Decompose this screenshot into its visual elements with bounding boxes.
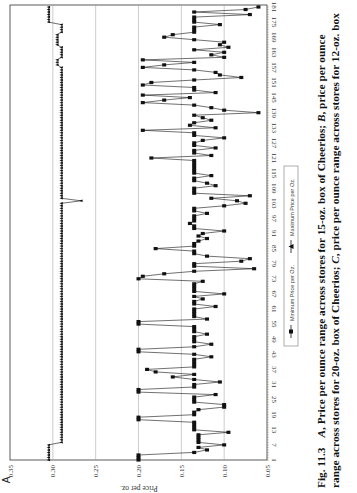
week-tick-label: 19 [270,411,278,419]
square-marker-icon [196,433,200,436]
square-marker-icon [192,10,196,13]
square-marker-icon [188,124,192,127]
square-marker-icon [162,36,166,39]
square-marker-icon [141,66,145,69]
week-tick-label: 121 [270,153,278,164]
week-tick-label: 73 [270,275,278,283]
square-marker-icon [192,373,196,376]
week-tick-label: 37 [270,366,278,374]
square-marker-icon [192,68,196,71]
week-tick-label: 139 [270,107,278,118]
square-marker-icon [209,53,213,56]
week-tick-label: 67 [270,290,278,298]
square-marker-icon [205,212,209,215]
week-tick-label: 7 [270,443,278,447]
square-marker-icon [162,63,166,66]
square-marker-icon [209,343,213,346]
square-marker-icon [192,48,196,51]
square-marker-icon [214,146,218,149]
square-marker-icon [244,202,248,205]
square-marker-icon [201,116,205,119]
price-axis-title: Price per oz. [120,484,158,493]
square-marker-icon [222,292,226,295]
square-marker-icon [222,229,226,232]
square-marker-icon [248,13,252,16]
square-marker-icon [192,345,196,348]
week-tick-label: 25 [270,396,278,404]
week-tick-label: 43 [270,351,278,359]
square-marker-icon [214,126,218,129]
square-marker-icon [226,431,230,434]
price-tick-label: 0.25 [92,465,100,478]
price-tick-label: 0.20 [135,465,143,478]
square-marker-icon [192,300,196,303]
square-marker-icon [192,187,196,190]
square-marker-icon [192,378,196,381]
square-marker-icon [205,255,209,258]
square-marker-icon [222,51,226,54]
square-marker-icon [192,270,196,273]
square-marker-icon [222,403,226,406]
square-marker-icon [137,453,141,456]
square-marker-icon [196,408,200,411]
legend-min-label: Minimum Price per Oz. [289,265,295,321]
square-marker-icon [171,375,175,378]
square-marker-icon [239,76,243,79]
square-marker-icon [137,277,141,280]
square-marker-icon [196,446,200,449]
week-tick-label: 91 [270,230,278,238]
week-tick-label: 61 [270,306,278,314]
square-marker-icon [154,370,158,373]
square-marker-icon [214,71,218,74]
caption-fig-number: Fig. 11.3 [315,447,327,488]
square-marker-icon [192,61,196,64]
week-tick-label: 115 [270,168,278,179]
square-marker-icon [209,174,213,177]
square-marker-icon [192,177,196,180]
square-marker-icon [205,317,209,320]
square-marker-icon [141,93,145,96]
square-marker-icon [205,182,209,185]
square-marker-icon [192,26,196,29]
square-marker-icon [222,443,226,446]
square-marker-icon [209,106,213,109]
square-marker-icon [205,333,209,336]
square-marker-icon [218,73,222,76]
square-marker-icon [192,224,196,227]
price-axis-ticks: 0.350.300.250.200.150.100.05 [7,465,272,478]
square-marker-icon [192,242,196,245]
square-marker-icon [209,197,213,200]
square-marker-icon [192,207,196,210]
square-marker-icon [141,58,145,61]
square-marker-icon [154,247,158,250]
square-marker-icon [192,131,196,134]
square-marker-icon [222,109,226,112]
square-marker-icon [192,121,196,124]
week-tick-label: 181 [270,2,278,13]
week-tick-label: 127 [270,138,278,149]
week-tick-label: 79 [270,260,278,268]
square-marker-icon [192,250,196,253]
square-marker-icon [192,214,196,217]
square-marker-icon [201,139,205,142]
square-marker-icon [222,41,226,44]
square-marker-icon [192,335,196,338]
square-marker-icon [137,348,141,351]
panel-label: A [1,476,12,483]
square-marker-icon [256,5,260,8]
square-marker-icon [192,395,196,398]
week-tick-label: 49 [270,336,278,344]
square-marker-icon [289,330,293,334]
price-tick-label: 0.35 [7,465,15,478]
square-marker-icon [192,15,196,18]
square-marker-icon [149,81,153,84]
square-marker-icon [252,267,256,270]
week-tick-label: 151 [270,77,278,88]
square-marker-icon [209,119,213,122]
square-marker-icon [214,305,218,308]
week-tick-label: 1 [270,458,278,462]
square-marker-icon [192,86,196,89]
square-marker-icon [209,154,213,157]
square-marker-icon [188,222,192,225]
square-marker-icon [192,295,196,298]
